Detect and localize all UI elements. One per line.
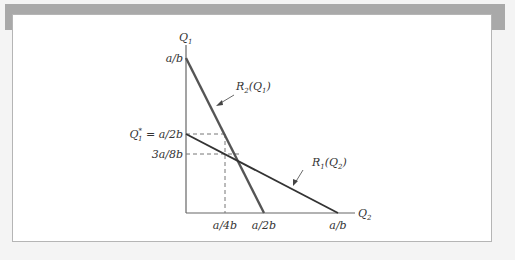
x-tick-a-over-b: a/b xyxy=(329,219,346,232)
r2-label: R2(Q1) xyxy=(235,80,271,95)
x-tick-a4b: a/4b xyxy=(213,219,237,232)
reaction-function-diagram: Q1 Q2 a/b Q*1 = a/2b 3a/8b a/4b a/2b a/b… xyxy=(0,0,515,260)
y-axis-label: Q1 xyxy=(179,31,193,46)
r1-line xyxy=(186,134,338,213)
r2-arrowhead-icon xyxy=(216,100,223,106)
r1-label: R1(Q2) xyxy=(311,156,347,171)
y-tick-3a8b: 3a/8b xyxy=(152,148,183,161)
y-tick-a-over-b: a/b xyxy=(166,52,183,65)
y-tick-q1-star: Q*1 = a/2b xyxy=(129,127,183,143)
x-tick-a2b: a/2b xyxy=(252,219,276,232)
x-axis-label: Q2 xyxy=(358,207,372,222)
